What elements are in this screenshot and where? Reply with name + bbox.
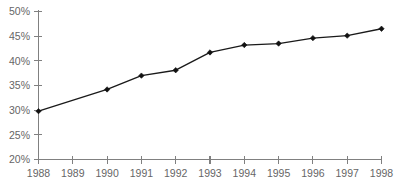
series-line [39,29,382,111]
data-point-marker [345,33,350,38]
data-point-marker [276,41,281,46]
x-tick-label: 1988 [27,167,51,179]
data-point-marker [36,108,41,113]
x-tick-label: 1995 [267,167,291,179]
x-tick-label: 1992 [164,167,188,179]
data-point-marker [104,87,109,92]
y-axis-tick-labels: 20%25%30%35%40%45%50% [9,5,30,165]
y-tick-label: 30% [9,104,30,116]
chart-canvas: 20%25%30%35%40%45%50% 198819891990199119… [0,0,396,184]
line-chart: 20%25%30%35%40%45%50% 198819891990199119… [0,0,396,184]
x-tick-label: 1996 [301,167,325,179]
y-tick-label: 45% [9,30,30,42]
data-point-marker [207,50,212,55]
y-axis: 20%25%30%35%40%45%50% [9,5,42,165]
data-point-marker [310,35,315,40]
x-axis-tick-labels: 1988198919901991199219931994199519961997… [27,167,394,179]
x-tick-label: 1994 [233,167,257,179]
y-tick-label: 20% [9,153,30,165]
data-point-marker [379,26,384,31]
x-tick-label: 1993 [198,167,222,179]
x-tick-label: 1998 [370,167,394,179]
y-tick-label: 40% [9,55,30,67]
y-tick-label: 50% [9,5,30,17]
data-series-group [36,26,384,114]
x-axis: 1988198919901991199219931994199519961997… [27,156,394,180]
x-tick-label: 1989 [61,167,85,179]
data-point-marker [173,68,178,73]
series-markers [36,26,384,114]
data-point-marker [242,42,247,47]
y-tick-label: 25% [9,129,30,141]
x-tick-label: 1997 [336,167,360,179]
x-tick-label: 1990 [95,167,119,179]
x-tick-label: 1991 [130,167,154,179]
data-point-marker [139,73,144,78]
y-tick-label: 35% [9,79,30,91]
